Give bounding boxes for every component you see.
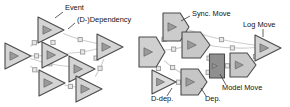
- node-R-f[interactable]: [210, 54, 225, 78]
- annotation-label-log-move: Log Move: [243, 20, 275, 29]
- annotation-label-dependency: (D-)Dependency: [77, 15, 132, 24]
- node-L-d[interactable]: [39, 70, 65, 96]
- annotation-dependency: (D-)Dependency: [68, 15, 132, 29]
- edge-connector-marker: [98, 66, 102, 70]
- edge-connector-marker: [156, 66, 160, 70]
- annotation-label-sync-move: Sync. Move: [192, 9, 231, 18]
- edge-connector-marker: [176, 80, 180, 84]
- node-R-h[interactable]: [255, 35, 281, 61]
- event-dependency-panel-labels: Event(D-)Dependency: [55, 3, 132, 29]
- node-L-a[interactable]: [5, 43, 31, 69]
- edge-connector-marker: [172, 47, 176, 51]
- edge-connector-marker: [34, 54, 38, 58]
- edge-connector-marker: [33, 68, 37, 72]
- annotation-sync-move: Sync. Move: [181, 9, 231, 21]
- annotation-leader-line: [68, 23, 75, 29]
- node-L-c[interactable]: [42, 42, 68, 68]
- event-dependency-panel-nodes: [5, 17, 123, 102]
- annotation-leader-line: [55, 12, 63, 18]
- edge-connector-marker: [219, 38, 223, 42]
- edge-connector-marker: [78, 37, 82, 41]
- annotation-label-event: Event: [65, 3, 84, 12]
- node-R-d[interactable]: [152, 70, 176, 94]
- node-L-e[interactable]: [69, 56, 95, 82]
- node-L-f[interactable]: [76, 76, 102, 102]
- figure-canvas: Event(D-)DependencySync. MoveLog MoveMod…: [0, 0, 290, 107]
- diagram-svg: Event(D-)DependencySync. MoveLog MoveMod…: [0, 0, 290, 107]
- annotation-label-d-dep: D-dep.: [151, 94, 173, 103]
- node-L-b[interactable]: [38, 17, 64, 43]
- edge-connector-marker: [68, 84, 72, 88]
- node-R-a[interactable]: [139, 37, 165, 67]
- node-R-g[interactable]: [230, 53, 256, 77]
- edge-connector-marker: [230, 46, 234, 50]
- annotation-dep: Dep.: [201, 88, 221, 103]
- annotation-log-move: Log Move: [243, 20, 275, 37]
- edge-connector-marker: [81, 50, 85, 54]
- edge-connector-marker: [51, 40, 55, 44]
- edge-connector-marker: [171, 65, 175, 69]
- edge-connector-marker: [225, 64, 229, 68]
- edge-connector-marker: [32, 41, 36, 45]
- node-L-g[interactable]: [97, 34, 123, 60]
- annotation-label-dep: Dep.: [205, 94, 221, 103]
- annotation-label-model-move: Model Move: [222, 83, 262, 92]
